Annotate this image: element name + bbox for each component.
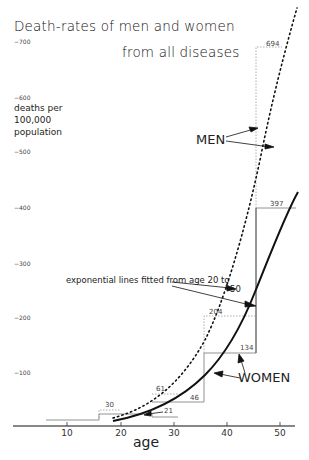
value-label-694: 694 <box>266 40 279 48</box>
x-tick-10: 10 <box>61 428 72 438</box>
value-label-21: 21 <box>164 407 173 415</box>
y-axis-label-line1: deaths per <box>14 102 63 114</box>
value-label-61: 61 <box>156 385 165 393</box>
y-axis-label-line3: population <box>14 126 62 138</box>
value-label-134: 134 <box>240 344 253 352</box>
series-label-women: WOMEN <box>238 370 290 385</box>
x-tick-50: 50 <box>274 428 285 438</box>
series-label-men: MEN <box>196 132 225 147</box>
y-tick-100: −100 <box>14 369 30 376</box>
value-label-30: 30 <box>105 401 114 409</box>
annotation-fitted-lines-end: 50 <box>230 284 241 294</box>
women-curve <box>113 192 298 421</box>
y-tick-300: −300 <box>14 260 30 267</box>
x-tick-30: 30 <box>168 428 179 438</box>
y-axis-label-line2: 100,000 <box>14 114 51 126</box>
y-tick-700: −700 <box>14 38 30 45</box>
y-tick-200: −200 <box>14 314 30 321</box>
chart-title-line2: from all diseases <box>122 44 239 60</box>
value-label-204: 204 <box>209 308 222 316</box>
value-label-397: 397 <box>270 200 283 208</box>
value-label-46: 46 <box>190 394 199 402</box>
x-axis-label: age <box>133 434 159 450</box>
x-tick-40: 40 <box>221 428 232 438</box>
annotation-fitted-lines: exponential lines fitted from age 20 to <box>66 275 230 285</box>
women-steps <box>46 208 296 420</box>
x-tick-20: 20 <box>115 428 126 438</box>
men-curve <box>113 8 297 418</box>
y-tick-500: −500 <box>14 148 30 155</box>
y-tick-400: −400 <box>14 204 30 211</box>
y-tick-600: −600 <box>14 94 30 101</box>
chart-title-line1: Death-rates of men and women <box>14 18 235 34</box>
chart-plot <box>0 0 309 460</box>
